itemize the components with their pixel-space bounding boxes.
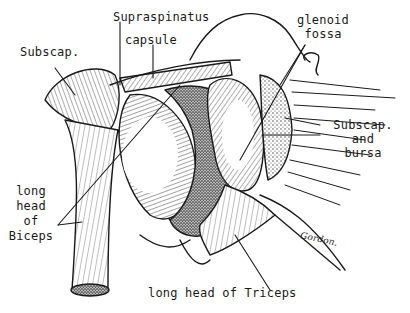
label-subscap: Subscap. [20,45,79,59]
label-biceps-line4: Biceps [0,229,62,244]
label-biceps-line3: of [0,214,62,229]
label-subscap-bursa: Subscap. and bursa [328,118,398,160]
label-subscap-bursa-line2: and [328,132,398,146]
label-biceps-line2: head [0,199,62,214]
label-glenoid-line1: glenoid [288,13,358,27]
anatomy-figure: Supraspinatus capsule Subscap. glenoid f… [0,0,410,313]
label-long-head-triceps: long head of Triceps [148,286,297,300]
label-capsule: capsule [125,33,177,47]
label-subscap-bursa-line1: Subscap. [328,118,398,132]
label-biceps-line1: long [0,184,62,199]
label-subscap-bursa-line3: bursa [328,146,398,160]
label-glenoid-fossa: glenoid fossa [288,13,358,41]
label-glenoid-line2: fossa [288,27,358,41]
label-long-head-biceps: long head of Biceps [0,184,62,244]
label-supraspinatus: Supraspinatus [113,10,210,24]
